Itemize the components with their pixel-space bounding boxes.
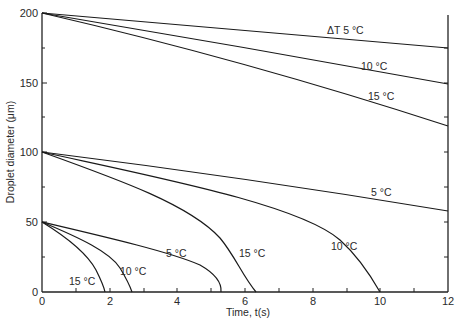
- label-50-10C: 10 °C: [120, 265, 147, 277]
- label-100-10C: 10 °C: [331, 240, 358, 252]
- y-axis-title: Droplet diameter (μm): [4, 101, 16, 203]
- y-tick-50: 50: [26, 216, 38, 228]
- x-tick-4: 4: [174, 295, 180, 307]
- x-tick-0: 0: [39, 295, 45, 307]
- label-200-15C: 15 °C: [368, 90, 395, 102]
- y-ticks: [42, 13, 448, 257]
- curve-200-5C: [42, 13, 448, 48]
- label-100-15C: 15 °C: [239, 247, 266, 259]
- label-50-15C: 15 °C: [69, 275, 96, 287]
- curve-100-15C: [42, 152, 256, 292]
- y-tick-200: 200: [20, 7, 38, 19]
- y-tick-100: 100: [20, 146, 38, 158]
- curve-200-10C: [42, 13, 448, 84]
- x-tick-2: 2: [107, 295, 113, 307]
- x-tick-8: 8: [310, 295, 316, 307]
- curve-labels: ΔT 5 °C 10 °C 15 °C 5 °C 10 °C 15 °C 5 °…: [69, 24, 395, 287]
- y-tick-labels: 200 150 100 50 0: [20, 7, 38, 298]
- y-tick-0: 0: [32, 286, 38, 298]
- curve-100-5C: [42, 152, 448, 211]
- x-tick-10: 10: [374, 295, 386, 307]
- label-50-5C: 5 °C: [166, 247, 187, 259]
- x-axis-title: Time, t(s): [226, 306, 270, 318]
- x-tick-12: 12: [442, 295, 454, 307]
- label-200-5C: ΔT 5 °C: [327, 24, 364, 36]
- curve-100-10C: [42, 152, 380, 292]
- droplet-diameter-chart: 200 150 100 50 0 0 2 4 6 8 10 12 Time, t…: [0, 0, 458, 322]
- label-200-10C: 10 °C: [361, 60, 388, 72]
- label-100-5C: 5 °C: [371, 186, 392, 198]
- y-tick-150: 150: [20, 77, 38, 89]
